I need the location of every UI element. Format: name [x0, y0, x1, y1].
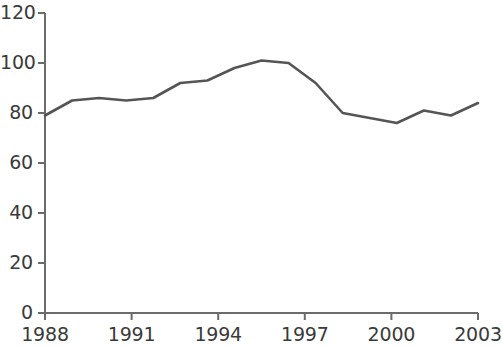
- y-axis-tick-label: 60: [0, 151, 33, 173]
- x-axis-tick-label: 1994: [178, 323, 258, 345]
- x-axis-tick-label: 1988: [5, 323, 85, 345]
- x-axis-tick-label: 2003: [438, 323, 502, 345]
- x-axis-ticks: [45, 313, 478, 320]
- axes-group: [45, 13, 478, 313]
- data-series-line: [45, 61, 478, 124]
- y-axis-ticks: [38, 13, 45, 313]
- y-axis-tick-label: 0: [0, 301, 33, 323]
- y-axis-tick-label: 40: [0, 201, 33, 223]
- x-axis-tick-label: 1991: [92, 323, 172, 345]
- x-axis-tick-label: 1997: [265, 323, 345, 345]
- line-chart: 020406080100120 198819911994199720002003: [0, 0, 502, 346]
- y-axis-tick-label: 80: [0, 101, 33, 123]
- y-axis-tick-label: 20: [0, 251, 33, 273]
- y-axis-tick-label: 100: [0, 51, 33, 73]
- x-axis-tick-label: 2000: [351, 323, 431, 345]
- y-axis-tick-label: 120: [0, 1, 33, 23]
- chart-canvas: [0, 0, 502, 346]
